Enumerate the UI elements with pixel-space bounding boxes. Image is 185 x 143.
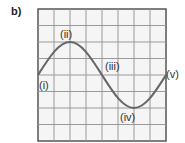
point-label-ii: (ii) xyxy=(60,28,72,40)
point-label-v: (v) xyxy=(166,68,179,80)
point-label-i: (i) xyxy=(39,79,49,91)
point-label-iv: (iv) xyxy=(120,111,135,123)
point-label-iii: (iii) xyxy=(105,60,120,72)
wave-diagram: (i) (ii) (iii) (iv) (v) xyxy=(0,0,185,143)
